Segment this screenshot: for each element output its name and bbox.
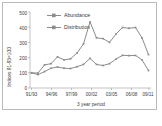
x-tick-marks [32, 88, 150, 90]
data-point [135, 27, 137, 29]
x-tick-label-5: 03/05 [106, 92, 118, 97]
data-point [50, 67, 52, 69]
x-tick-label-2: 94/96 [46, 92, 58, 97]
y-tick-label-200: 200 [19, 56, 27, 61]
data-point [63, 59, 65, 61]
legend-label-distribution: Distribution [64, 24, 90, 30]
y-tick-label-500: 500 [19, 11, 27, 16]
y-tick-label-100: 100 [19, 71, 27, 76]
series-line-abundance [32, 22, 149, 73]
y-axis-title: Indices 91-93=100 [7, 47, 12, 87]
data-point [115, 33, 117, 35]
data-point [102, 65, 104, 67]
data-point [76, 66, 78, 68]
data-point [141, 37, 143, 39]
data-point [115, 58, 117, 60]
series-abundance [31, 21, 150, 74]
x-tick-label-1: 91/93 [26, 92, 38, 97]
x-tick-label-7: 09/11 [142, 92, 154, 97]
data-point [44, 64, 46, 66]
data-point [141, 59, 143, 61]
data-point [57, 56, 59, 58]
line-chart-plot: Indices 91-93=100 500 400 300 200 100 0 [3, 3, 158, 111]
legend-label-abundance: Abundance [64, 12, 90, 18]
x-axis-title: 3 year period [77, 102, 105, 107]
legend-item-distribution[interactable]: Distribution [47, 24, 90, 30]
series-distribution [31, 54, 150, 75]
data-point [37, 72, 39, 74]
data-point [122, 54, 124, 56]
data-point [135, 55, 137, 57]
data-point [31, 72, 33, 74]
legend-swatch-marker-distribution [52, 26, 56, 30]
data-point [148, 70, 150, 72]
data-point [128, 27, 130, 29]
x-tick-label-6: 06/08 [126, 92, 138, 97]
legend-item-abundance[interactable]: Abundance [47, 12, 90, 18]
x-tick-label-3: 97/99 [66, 92, 78, 97]
data-point [89, 58, 91, 60]
chart-frame: Indices 91-93=100 500 400 300 200 100 0 [2, 2, 157, 110]
legend: Abundance Distribution [47, 12, 90, 30]
data-point [83, 64, 85, 66]
legend-swatch-marker-abundance [52, 14, 56, 18]
y-tick-label-300: 300 [19, 41, 27, 46]
data-point [122, 27, 124, 29]
data-point [44, 71, 46, 73]
data-point [109, 42, 111, 44]
data-point [76, 52, 78, 54]
y-tick-label-400: 400 [19, 26, 27, 31]
data-point [70, 58, 72, 60]
data-point [37, 74, 39, 76]
data-point [89, 21, 91, 23]
y-tick-label-0: 0 [24, 86, 27, 91]
data-point [109, 63, 111, 65]
data-point [70, 68, 72, 70]
x-tick-label-4: 00/02 [86, 92, 98, 97]
data-point [96, 64, 98, 66]
data-point [128, 55, 130, 57]
data-point [96, 37, 98, 39]
data-point [57, 66, 59, 68]
data-point [63, 67, 65, 69]
data-point [83, 43, 85, 45]
data-point [50, 63, 52, 65]
chart-figure: Indices 91-93=100 500 400 300 200 100 0 [0, 0, 162, 126]
series-layer [31, 21, 150, 75]
data-point [148, 54, 150, 56]
data-point [102, 38, 104, 40]
